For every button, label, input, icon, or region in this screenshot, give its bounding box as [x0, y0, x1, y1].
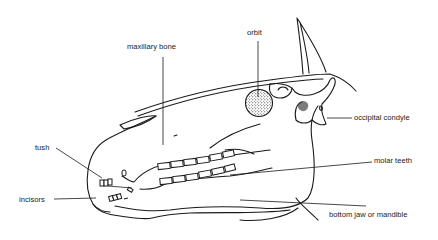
label-molar-teeth: molar teeth: [374, 157, 412, 165]
leader-incisors: [54, 198, 96, 199]
orbit-shape: [246, 90, 273, 117]
label-incisors: incisors: [19, 196, 45, 204]
ear-outline: [297, 18, 326, 74]
label-orbit: orbit: [247, 29, 262, 37]
label-occipital-condyle: occipital condyle: [354, 114, 410, 122]
tush-tooth-upper: [122, 170, 126, 176]
upper-incisors: [100, 179, 112, 186]
leader-tush: [56, 148, 102, 178]
leader-molar: [230, 162, 372, 175]
label-bottom-jaw: bottom jaw or mandible: [329, 211, 408, 219]
label-maxillary-bone: maxillary bone: [127, 43, 176, 51]
lower-incisors: [109, 194, 122, 202]
label-tush: tush: [35, 144, 49, 152]
horse-skull-diagram: maxillary bone orbit occipital condyle t…: [0, 0, 438, 240]
